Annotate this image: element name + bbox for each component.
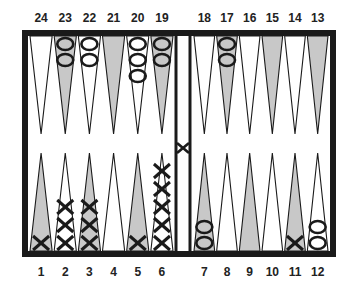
point-label-21: 21 — [107, 11, 121, 25]
point-label-24: 24 — [34, 11, 48, 25]
point-label-18: 18 — [198, 11, 212, 25]
point-label-5: 5 — [134, 265, 141, 279]
point-label-16: 16 — [243, 11, 257, 25]
point-24[interactable] — [30, 36, 52, 134]
point-4[interactable] — [103, 153, 125, 251]
bar-x-checker[interactable] — [177, 143, 189, 153]
top-point-labels: 242322212019181716151413 — [34, 11, 324, 25]
point-label-4: 4 — [110, 265, 117, 279]
point-label-10: 10 — [266, 265, 280, 279]
point-21[interactable] — [103, 36, 125, 134]
point-label-2: 2 — [62, 265, 69, 279]
point-label-22: 22 — [83, 11, 97, 25]
point-label-14: 14 — [288, 11, 302, 25]
point-label-13: 13 — [311, 11, 325, 25]
backgammon-board: 242322212019181716151413 123456789101112 — [0, 0, 357, 290]
point-14[interactable] — [285, 36, 306, 134]
point-label-6: 6 — [159, 265, 166, 279]
point-9[interactable] — [239, 153, 260, 251]
point-label-11: 11 — [289, 265, 302, 279]
point-10[interactable] — [262, 153, 283, 251]
point-label-15: 15 — [266, 11, 280, 25]
point-label-9: 9 — [246, 265, 253, 279]
board-bar — [176, 30, 190, 257]
point-18[interactable] — [194, 36, 215, 134]
point-label-20: 20 — [131, 11, 145, 25]
point-label-7: 7 — [201, 265, 208, 279]
point-8[interactable] — [217, 153, 238, 251]
point-label-1: 1 — [38, 265, 45, 279]
point-16[interactable] — [239, 36, 260, 134]
point-label-17: 17 — [220, 11, 234, 25]
point-label-19: 19 — [155, 11, 169, 25]
point-label-23: 23 — [59, 11, 73, 25]
point-label-12: 12 — [311, 265, 325, 279]
point-label-3: 3 — [86, 265, 93, 279]
point-15[interactable] — [262, 36, 283, 134]
point-13[interactable] — [307, 36, 328, 134]
bottom-point-labels: 123456789101112 — [38, 265, 325, 279]
point-label-8: 8 — [224, 265, 231, 279]
